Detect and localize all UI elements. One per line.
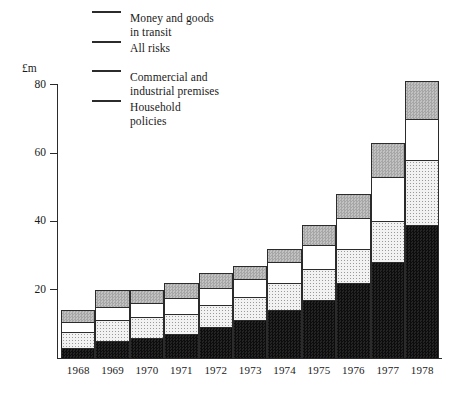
bar-segment-household-1976	[336, 283, 370, 359]
bar-segment-commercial-1972	[199, 305, 233, 328]
bar-segment-commercial-1978	[405, 160, 439, 226]
bar-segment-allrisks-1973	[233, 279, 267, 297]
bar-1978	[405, 0, 439, 406]
bar-segment-allrisks-1969	[95, 307, 129, 322]
bar-1971	[164, 0, 198, 406]
plot-area: £m 80604020 1968196919701971197219731974…	[0, 0, 461, 406]
bar-1974	[267, 0, 301, 406]
bar-segment-commercial-1974	[267, 283, 301, 311]
bar-segment-household-1977	[371, 262, 405, 359]
bar-1977	[371, 0, 405, 406]
bar-segment-commercial-1975	[302, 269, 336, 301]
bar-segment-money-1975	[302, 225, 336, 246]
bar-segment-allrisks-1976	[336, 218, 370, 250]
bar-segment-household-1970	[130, 338, 164, 359]
bar-segment-household-1972	[199, 327, 233, 359]
bar-segment-money-1971	[164, 283, 198, 299]
bar-segment-allrisks-1975	[302, 245, 336, 270]
bar-segment-household-1971	[164, 334, 198, 359]
bar-segment-allrisks-1972	[199, 288, 233, 306]
bar-segment-allrisks-1968	[61, 322, 95, 333]
bars-layer	[0, 0, 461, 406]
bar-segment-household-1968	[61, 348, 95, 359]
bar-segment-allrisks-1974	[267, 262, 301, 283]
bar-segment-commercial-1973	[233, 297, 267, 322]
bar-segment-allrisks-1970	[130, 303, 164, 318]
bar-segment-money-1973	[233, 266, 267, 281]
bar-segment-money-1978	[405, 81, 439, 120]
bar-1969	[95, 0, 129, 406]
bar-segment-money-1972	[199, 273, 233, 289]
bar-1973	[233, 0, 267, 406]
bar-1972	[199, 0, 233, 406]
bar-segment-allrisks-1977	[371, 177, 405, 222]
bar-1976	[336, 0, 370, 406]
bar-segment-household-1974	[267, 310, 301, 359]
bar-segment-money-1970	[130, 290, 164, 305]
bar-1970	[130, 0, 164, 406]
bar-segment-household-1969	[95, 341, 129, 359]
bar-segment-money-1977	[371, 143, 405, 178]
bar-segment-commercial-1971	[164, 314, 198, 335]
bar-segment-money-1969	[95, 290, 129, 308]
bar-segment-household-1978	[405, 225, 439, 359]
bar-segment-money-1974	[267, 249, 301, 264]
bar-1968	[61, 0, 95, 406]
bar-segment-household-1973	[233, 320, 267, 359]
bar-segment-commercial-1970	[130, 317, 164, 338]
bar-segment-money-1976	[336, 194, 370, 219]
bar-segment-allrisks-1971	[164, 298, 198, 314]
bar-segment-money-1968	[61, 310, 95, 323]
bar-1975	[302, 0, 336, 406]
bar-segment-household-1975	[302, 300, 336, 359]
bar-segment-commercial-1976	[336, 249, 370, 284]
x-axis-tick-label-1978: 1978	[402, 364, 442, 376]
bar-segment-commercial-1977	[371, 221, 405, 263]
bar-segment-commercial-1968	[61, 332, 95, 348]
stacked-bar-chart-figure: Money and goods in transit All risks Com…	[0, 0, 461, 406]
bar-segment-allrisks-1978	[405, 119, 439, 161]
bar-segment-commercial-1969	[95, 320, 129, 341]
